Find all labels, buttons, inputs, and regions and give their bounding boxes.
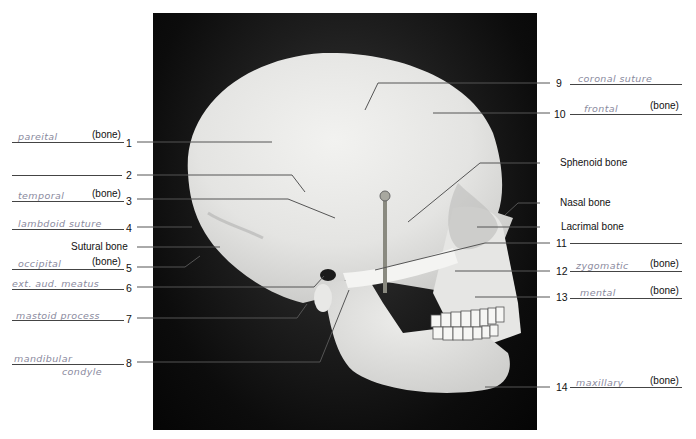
answer-line-12 xyxy=(570,271,682,272)
bone-suffix-1: (bone) xyxy=(92,129,121,141)
number-4: 4 xyxy=(126,222,132,234)
number-14: 14 xyxy=(556,381,568,393)
answer-line-8 xyxy=(12,364,124,365)
answer-line-5 xyxy=(12,269,124,270)
number-5: 5 xyxy=(126,262,132,274)
answer-8-line2: condyle xyxy=(62,366,102,377)
answer-line-4 xyxy=(12,229,124,230)
bone-suffix-12: (bone) xyxy=(650,258,679,270)
answer-12: zygomatic xyxy=(576,260,629,271)
answer-line-11 xyxy=(570,243,682,244)
bone-suffix-3: (bone) xyxy=(92,188,121,200)
answer-3: temporal xyxy=(18,190,64,201)
label-sphenoid-bone: Sphenoid bone xyxy=(560,157,627,169)
answer-line-1 xyxy=(12,142,124,143)
answer-line-14 xyxy=(570,387,682,388)
answer-line-9 xyxy=(570,84,682,85)
number-3: 3 xyxy=(126,195,132,207)
number-6: 6 xyxy=(126,282,132,294)
answer-8: mandibular xyxy=(14,353,72,364)
number-9: 9 xyxy=(556,77,562,89)
answer-9: coronal suture xyxy=(578,73,652,84)
answer-line-13 xyxy=(570,298,682,299)
answer-6: ext. aud. meatus xyxy=(12,278,99,289)
answer-13: mental xyxy=(580,287,616,298)
bone-suffix-14: (bone) xyxy=(650,375,679,387)
bone-suffix-13: (bone) xyxy=(650,285,679,297)
number-13: 13 xyxy=(556,291,568,303)
number-2: 2 xyxy=(126,169,132,181)
answer-1: pareital xyxy=(18,131,58,142)
answer-line-7 xyxy=(12,320,124,321)
answer-5: occipital xyxy=(18,258,61,269)
number-8: 8 xyxy=(126,357,132,369)
number-7: 7 xyxy=(126,313,132,325)
number-11: 11 xyxy=(556,237,567,249)
skull-illustration xyxy=(153,13,537,430)
skull-photograph xyxy=(153,13,537,430)
number-12: 12 xyxy=(556,265,568,277)
answer-4: lambdoid suture xyxy=(18,218,102,229)
bone-suffix-10: (bone) xyxy=(650,100,679,112)
label-sutural-bone: Sutural bone xyxy=(71,241,128,253)
answer-line-10 xyxy=(570,114,682,115)
answer-line-3 xyxy=(12,201,124,202)
label-lacrimal-bone: Lacrimal bone xyxy=(561,221,624,233)
answer-line-2 xyxy=(12,175,122,176)
bone-suffix-5: (bone) xyxy=(92,256,121,268)
answer-10: frontal xyxy=(584,103,618,114)
label-nasal-bone: Nasal bone xyxy=(560,197,611,209)
number-10: 10 xyxy=(554,108,566,120)
answer-line-6 xyxy=(12,289,124,290)
number-1: 1 xyxy=(126,137,132,149)
